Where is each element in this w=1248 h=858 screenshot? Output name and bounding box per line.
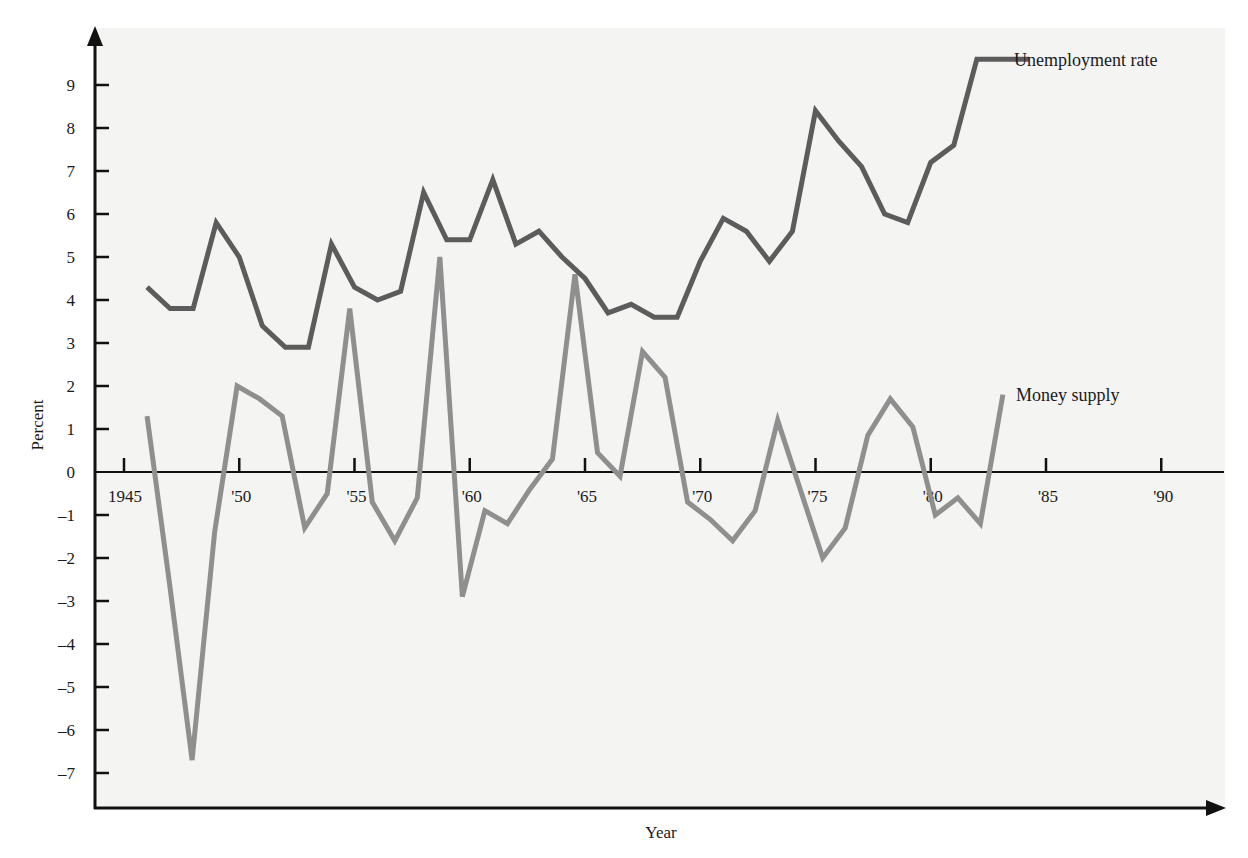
y-tick-label: 7 [67, 162, 76, 181]
x-tick-label: '90 [1153, 487, 1173, 506]
x-tick-label: '60 [462, 487, 482, 506]
y-tick-label: 0 [67, 463, 76, 482]
unemployment-rate-label: Unemployment rate [1014, 50, 1157, 70]
y-tick-label: –4 [57, 635, 76, 654]
y-tick-label: 3 [67, 334, 76, 353]
x-tick-label: '75 [807, 487, 827, 506]
y-tick-label: 4 [67, 291, 76, 310]
x-tick-label: 1945 [108, 487, 142, 506]
y-tick-label: 1 [67, 420, 76, 439]
y-tick-label: 5 [67, 248, 76, 267]
x-tick-label: '55 [346, 487, 366, 506]
x-axis-title: Year [645, 823, 677, 842]
y-tick-label: 8 [67, 119, 76, 138]
y-tick-label: –5 [57, 678, 75, 697]
x-tick-label: '70 [692, 487, 712, 506]
plot-background [95, 28, 1225, 808]
y-tick-label: 2 [67, 377, 76, 396]
y-tick-label: –6 [57, 721, 75, 740]
y-tick-label: –7 [57, 764, 76, 783]
y-tick-label: –2 [57, 549, 75, 568]
y-tick-label: –3 [57, 592, 75, 611]
x-tick-label: '85 [1038, 487, 1058, 506]
y-tick-label: 9 [67, 76, 76, 95]
money-supply-label: Money supply [1016, 385, 1120, 405]
line-chart: 9876543210–1–2–3–4–5–6–7 1945'50'55'60'6… [0, 0, 1248, 858]
x-tick-label: '50 [231, 487, 251, 506]
y-axis-title: Percent [28, 399, 47, 450]
y-tick-label: 6 [67, 205, 76, 224]
y-tick-label: –1 [57, 506, 75, 525]
x-tick-label: '65 [577, 487, 597, 506]
